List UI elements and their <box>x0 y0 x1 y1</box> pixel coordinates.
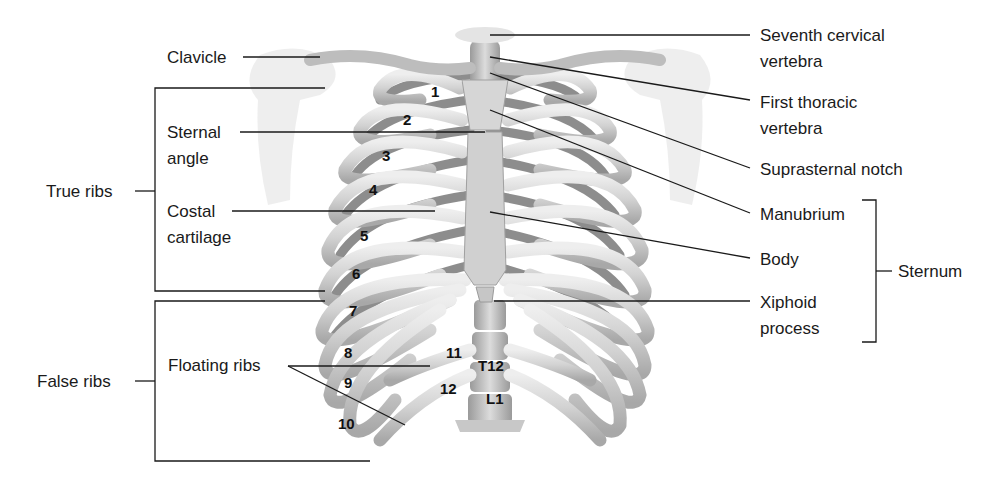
label-body: Body <box>760 249 799 270</box>
label-sternal-angle-line2: angle <box>167 148 209 169</box>
label-costal-cartilage-line1: Costal <box>167 201 215 222</box>
vertebra-label-l1: L1 <box>486 391 504 407</box>
group-label-sternum: Sternum <box>898 261 962 282</box>
label-xiphoid-line1: Xiphoid <box>760 292 817 313</box>
label-seventh-cervical-line1: Seventh cervical <box>760 25 885 46</box>
rib-number-12: 12 <box>440 381 457 397</box>
rib-number-3: 3 <box>382 148 390 164</box>
sternum <box>462 80 508 302</box>
label-seventh-cervical-line2: vertebra <box>760 51 822 72</box>
rib-number-7: 7 <box>349 303 357 319</box>
shoulder-left <box>249 49 335 205</box>
group-label-true-ribs: True ribs <box>46 181 112 202</box>
rib-number-4: 4 <box>369 182 377 198</box>
label-clavicle: Clavicle <box>167 47 227 68</box>
label-sternal-angle-line1: Sternal <box>167 122 221 143</box>
group-label-false-ribs: False ribs <box>37 371 111 392</box>
vertebra-label-t12: T12 <box>478 358 504 374</box>
rib-number-6: 6 <box>352 266 360 282</box>
rib-number-8: 8 <box>344 345 352 361</box>
rib-cage-illustration <box>0 0 1007 483</box>
label-first-thoracic-line2: vertebra <box>760 118 822 139</box>
rib-number-9: 9 <box>344 375 352 391</box>
rib-number-1: 1 <box>431 84 439 100</box>
label-costal-cartilage-line2: cartilage <box>167 227 231 248</box>
label-manubrium: Manubrium <box>760 204 845 225</box>
rib-number-10: 10 <box>338 416 355 432</box>
rib-number-2: 2 <box>403 112 411 128</box>
label-first-thoracic-line1: First thoracic <box>760 92 857 113</box>
rib-number-11: 11 <box>446 345 462 361</box>
label-xiphoid-line2: process <box>760 318 820 339</box>
label-floating-ribs: Floating ribs <box>168 355 261 376</box>
rib-number-5: 5 <box>360 228 368 244</box>
label-suprasternal-notch: Suprasternal notch <box>760 159 903 180</box>
